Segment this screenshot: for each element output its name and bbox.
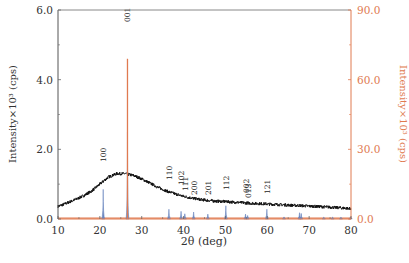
blue-peak xyxy=(179,211,182,219)
hkl-label: 200 xyxy=(190,180,199,195)
blue-peak xyxy=(224,206,227,219)
x-tick-label: 10 xyxy=(51,224,64,236)
blue-peak xyxy=(102,189,105,219)
blue-peak xyxy=(167,209,170,219)
x-axis-label: 2θ (deg) xyxy=(181,235,227,248)
chart-canvas: 001100110102111200201112002013121 102030… xyxy=(0,0,409,263)
x-tick-label: 30 xyxy=(135,224,148,236)
y-tick-label-left: 2.0 xyxy=(36,143,53,155)
hkl-label: 013 xyxy=(244,183,253,198)
y-tick-label-right: 60.0 xyxy=(357,74,380,86)
y-tick-label-left: 6.0 xyxy=(36,4,53,16)
y-axis-label-left: Intensity×10³ (cps) xyxy=(7,65,18,163)
x-tick-label: 70 xyxy=(302,224,315,236)
hkl-label: 112 xyxy=(222,175,231,190)
y-axis-label-right: Intensity×10³ (cps) xyxy=(398,65,409,163)
blue-peak xyxy=(192,212,195,219)
plot-area: 001100110102111200201112002013121 xyxy=(58,8,352,219)
y-tick-label-left: 0.0 xyxy=(36,213,53,225)
y-tick-label-right: 0.0 xyxy=(357,213,374,225)
hkl-label: 201 xyxy=(204,181,213,195)
xrd-chart: 001100110102111200201112002013121 102030… xyxy=(0,0,409,263)
x-tick-label: 80 xyxy=(344,224,357,236)
blue-peak xyxy=(265,209,268,219)
y-tick-label-left: 4.0 xyxy=(36,74,53,86)
y-tick-label-right: 30.0 xyxy=(357,143,380,155)
hkl-label: 110 xyxy=(165,165,174,180)
hkl-label: 111 xyxy=(181,177,190,191)
blue-peak xyxy=(206,214,209,219)
x-tick-label: 20 xyxy=(93,224,106,236)
y-tick-label-right: 90.0 xyxy=(357,4,380,16)
x-tick-label: 60 xyxy=(261,224,274,236)
hkl-label: 100 xyxy=(99,147,108,162)
hkl-label: 121 xyxy=(263,180,272,194)
